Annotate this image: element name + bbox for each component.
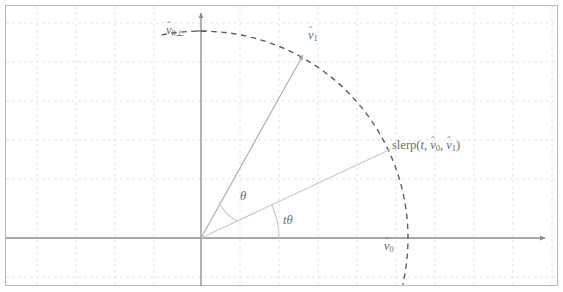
hat-accent-icon: ˆ: [447, 136, 450, 146]
label-v0-perp: ˆv0⊥: [166, 24, 184, 38]
hat-accent-icon: ˆ: [309, 26, 312, 36]
label-t-theta-symbol: θ: [286, 213, 292, 227]
diagram-canvas: [0, 0, 563, 292]
label-v0-perp-sub: 0⊥: [172, 28, 184, 38]
label-v1-sub: 1: [314, 33, 318, 43]
slerp-function-name: slerp(: [392, 138, 420, 152]
label-slerp-expression: slerp(t, ˆv0, ˆv1): [392, 139, 460, 153]
label-theta: θ: [240, 190, 246, 203]
label-v0: ˆv0: [384, 240, 394, 254]
hat-accent-icon: ˆ: [431, 136, 434, 146]
hat-accent-icon: ˆ: [385, 237, 388, 247]
slerp-diagram-figure: ˆv0⊥ ˆv1 ˆv0 θ tθ slerp(t, ˆv0, ˆv1): [0, 0, 563, 292]
label-t-theta: tθ: [283, 214, 293, 227]
label-v0-sub: 0: [390, 244, 394, 254]
slerp-close-paren: ): [456, 138, 460, 152]
label-theta-symbol: θ: [240, 189, 246, 203]
hat-accent-icon: ˆ: [167, 21, 170, 31]
label-v1: ˆv1: [308, 29, 318, 43]
